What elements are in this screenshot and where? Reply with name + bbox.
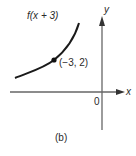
function-label: f(x + 3) <box>27 11 58 21</box>
x-axis-arrow-icon <box>116 89 125 95</box>
function-curve <box>15 23 79 78</box>
y-axis-arrow-icon <box>99 16 105 26</box>
x-axis-label: x <box>126 87 131 97</box>
origin-label: 0 <box>94 97 100 107</box>
point-marker <box>51 57 56 62</box>
caption: (b) <box>55 133 67 143</box>
y-axis-label: y <box>104 5 109 15</box>
point-label: (−3, 2) <box>59 58 88 68</box>
graph-canvas <box>0 0 136 156</box>
